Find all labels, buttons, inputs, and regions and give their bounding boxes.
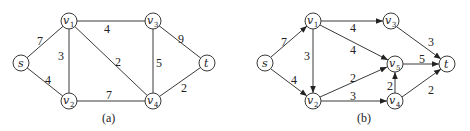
svg-text:v: v xyxy=(63,14,70,27)
weight-b-v3-t: 3 xyxy=(428,35,434,49)
svg-text:4: 4 xyxy=(396,101,401,109)
weight-a-s-v2: 4 xyxy=(45,73,51,87)
svg-text:v: v xyxy=(389,57,396,70)
weight-b-v2-v4: 3 xyxy=(350,89,356,103)
weight-b-s-v1: 7 xyxy=(281,35,287,49)
node-a-v4: v 4 xyxy=(145,93,161,109)
weight-a-v3-v4: 5 xyxy=(156,56,162,70)
svg-text:2: 2 xyxy=(314,101,318,109)
graph-a: 7 4 3 4 2 7 5 9 2 s v 1 v 2 v 3 v xyxy=(13,13,215,125)
svg-text:5: 5 xyxy=(396,64,400,72)
svg-text:v: v xyxy=(147,14,154,27)
svg-text:s: s xyxy=(262,57,268,70)
weight-a-v1-v2: 3 xyxy=(58,49,64,63)
node-a-t: t xyxy=(199,55,215,71)
svg-text:3: 3 xyxy=(154,21,158,29)
node-a-v3: v 3 xyxy=(145,13,161,29)
svg-text:s: s xyxy=(18,57,24,70)
node-a-v1: v 1 xyxy=(61,13,77,29)
node-b-v1: v 1 xyxy=(305,13,321,29)
weight-b-s-v2: 4 xyxy=(291,73,297,87)
svg-text:v: v xyxy=(307,94,314,107)
svg-text:4: 4 xyxy=(154,101,159,109)
svg-text:3: 3 xyxy=(392,21,396,29)
node-b-t: t xyxy=(439,56,455,72)
weight-a-v2-v4: 7 xyxy=(106,88,112,102)
node-b-v2: v 2 xyxy=(305,93,321,109)
weight-b-v1-v5: 4 xyxy=(350,43,356,57)
weight-b-v1-v3: 4 xyxy=(350,21,356,35)
weight-b-v1-v2: 3 xyxy=(304,49,310,63)
node-a-s: s xyxy=(13,55,29,71)
svg-text:2: 2 xyxy=(70,101,74,109)
weight-b-v5-t: 5 xyxy=(419,52,425,66)
svg-text:t: t xyxy=(444,58,449,71)
svg-text:v: v xyxy=(147,94,154,107)
svg-text:v: v xyxy=(389,94,396,107)
caption-a: (a) xyxy=(102,111,115,125)
edge-b-s-v2 xyxy=(271,69,307,96)
weight-a-v3-t: 9 xyxy=(178,32,184,46)
weight-a-s-v1: 7 xyxy=(37,34,43,48)
svg-text:1: 1 xyxy=(70,21,74,29)
weight-b-v2-v5: 2 xyxy=(350,71,356,85)
diagram-canvas: 7 4 3 4 2 7 5 9 2 s v 1 v 2 v 3 v xyxy=(0,0,470,131)
node-b-v4: v 4 xyxy=(387,93,403,109)
weight-a-v1-v4: 2 xyxy=(115,55,121,69)
edge-b-v4-t xyxy=(402,69,441,97)
node-b-v3: v 3 xyxy=(383,13,399,29)
svg-text:v: v xyxy=(63,94,70,107)
edge-b-s-v1 xyxy=(271,26,307,57)
svg-text:v: v xyxy=(385,14,392,27)
node-a-v2: v 2 xyxy=(61,93,77,109)
caption-b: (b) xyxy=(357,111,371,125)
weight-a-v1-v3: 4 xyxy=(104,22,110,36)
weight-b-v4-t: 2 xyxy=(428,83,434,97)
svg-text:v: v xyxy=(307,14,314,27)
weight-b-v4-v5: 2 xyxy=(387,79,393,93)
node-b-v5: v 5 xyxy=(387,56,403,72)
node-b-s: s xyxy=(257,55,273,71)
svg-text:1: 1 xyxy=(314,21,318,29)
svg-text:t: t xyxy=(204,57,209,70)
weight-a-v4-t: 2 xyxy=(181,81,187,95)
graph-b: 7 4 3 4 4 2 3 2 3 5 2 s v 1 v 2 v 3 xyxy=(257,13,455,125)
